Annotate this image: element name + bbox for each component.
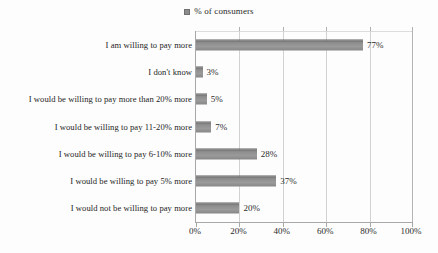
bar-band: 5% bbox=[196, 86, 413, 113]
plot-area: 77% 3% 5% 7% 28% 37% 20% bbox=[195, 31, 413, 223]
bar bbox=[196, 176, 276, 187]
bar bbox=[196, 148, 257, 159]
bar-band: 20% bbox=[196, 195, 413, 222]
bar-band: 7% bbox=[196, 113, 413, 140]
bar-value-label: 7% bbox=[211, 122, 227, 132]
legend-swatch-icon bbox=[184, 9, 190, 15]
category-label-row: I would be willing to pay 5% more bbox=[4, 167, 192, 194]
category-label: I don't know bbox=[6, 67, 192, 77]
bar-value-label: 3% bbox=[203, 67, 219, 77]
xtick-label: 40% bbox=[274, 226, 291, 236]
category-label: I would be willing to pay 11-20% more bbox=[6, 122, 192, 132]
legend-series-label: % of consumers bbox=[194, 6, 253, 16]
xtick-label: 20% bbox=[230, 226, 247, 236]
bar bbox=[196, 94, 207, 105]
category-label-row: I am willing to pay more bbox=[4, 31, 192, 58]
bar bbox=[196, 203, 239, 214]
category-label: I would be willing to pay more than 20% … bbox=[6, 94, 192, 104]
bar-value-label: 5% bbox=[207, 94, 223, 104]
category-label: I would be willing to pay 5% more bbox=[6, 176, 192, 186]
category-label-row: I would be willing to pay more than 20% … bbox=[4, 86, 192, 113]
bar-value-label: 20% bbox=[239, 203, 260, 213]
xtick-label: 60% bbox=[317, 226, 334, 236]
bar-band: 77% bbox=[196, 31, 413, 58]
bar bbox=[196, 121, 211, 132]
xtick-label: 0% bbox=[189, 226, 201, 236]
bar bbox=[196, 39, 363, 50]
category-label-row: I don't know bbox=[4, 58, 192, 85]
xtick-label: 100% bbox=[401, 226, 422, 236]
bar-value-label: 77% bbox=[363, 40, 384, 50]
category-axis-labels: I am willing to pay more I don't know I … bbox=[4, 31, 192, 222]
value-axis-labels: 0% 20% 40% 60% 80% 100% bbox=[195, 226, 413, 240]
horizontal-bar-chart: % of consumers I am willing to pay more … bbox=[0, 0, 438, 253]
chart-legend: % of consumers bbox=[0, 2, 438, 20]
category-label-row: I would be willing to pay 11-20% more bbox=[4, 113, 192, 140]
category-label: I am willing to pay more bbox=[6, 40, 192, 50]
bar-value-label: 28% bbox=[257, 149, 278, 159]
category-label: I would be willing to pay 6-10% more bbox=[6, 149, 192, 159]
bar-band: 28% bbox=[196, 140, 413, 167]
category-label-row: I would be willing to pay 6-10% more bbox=[4, 140, 192, 167]
bar-band: 37% bbox=[196, 167, 413, 194]
category-label-row: I would not be willing to pay more bbox=[4, 195, 192, 222]
category-label: I would not be willing to pay more bbox=[6, 203, 192, 213]
bar-band: 3% bbox=[196, 58, 413, 85]
bar-value-label: 37% bbox=[276, 176, 297, 186]
xtick-label: 80% bbox=[360, 226, 377, 236]
